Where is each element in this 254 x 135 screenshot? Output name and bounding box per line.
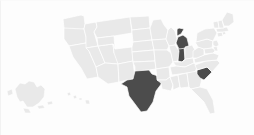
us-choropleth-map[interactable]: [0, 0, 254, 135]
state-florida[interactable]: [191, 87, 215, 114]
state-new-jersey[interactable]: [213, 40, 219, 47]
state-oklahoma[interactable]: [133, 61, 156, 71]
states-layer: [7, 12, 234, 114]
state-north-dakota[interactable]: [130, 16, 150, 30]
state-south-dakota[interactable]: [132, 28, 152, 42]
state-maine[interactable]: [222, 12, 234, 26]
state-arkansas[interactable]: [156, 67, 170, 80]
state-minnesota[interactable]: [150, 19, 168, 40]
state-arizona[interactable]: [96, 63, 119, 84]
state-montana[interactable]: [94, 17, 132, 38]
state-kansas[interactable]: [132, 50, 155, 62]
state-missouri[interactable]: [154, 50, 173, 69]
alaska-inset[interactable]: [7, 81, 53, 113]
hawaii-inset[interactable]: [67, 92, 90, 104]
map-canvas: [1, 1, 254, 135]
